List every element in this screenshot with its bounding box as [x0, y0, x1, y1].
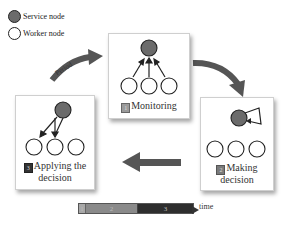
- timeline-segment-2: 2: [85, 204, 137, 213]
- service-node-icon: [55, 102, 71, 118]
- timeline-bar: 1 2 3: [78, 203, 194, 214]
- curved-arrow-right-icon: [193, 63, 245, 97]
- worker-node-icon: [26, 139, 42, 155]
- left-arrow-icon: [122, 152, 181, 172]
- worker-node-icon: [228, 141, 244, 157]
- worker-node-icon: [47, 139, 63, 155]
- service-node-icon: [231, 110, 247, 126]
- stage-card-applying-decision: 3Applying the decision: [15, 95, 95, 190]
- stage-badge-1: 1: [121, 103, 130, 113]
- time-axis-label: time: [199, 202, 213, 211]
- worker-node-icon: [68, 139, 84, 155]
- service-node-icon: [141, 40, 157, 56]
- worker-node-icon: [207, 141, 223, 157]
- worker-node-icon: [141, 78, 157, 94]
- worker-node-icon: [249, 141, 265, 157]
- stage-label-line2: decision: [16, 172, 94, 183]
- worker-node-icon: [161, 78, 177, 94]
- stage-card-monitoring: 1Monitoring: [108, 33, 190, 119]
- stage-label-line2: decision: [201, 174, 273, 185]
- stage-label: 1Monitoring: [109, 100, 189, 113]
- worker-node-icon: [121, 78, 137, 94]
- stage-card-making-decision: 2Making decision: [200, 97, 274, 191]
- timeline-segment-3: 3: [137, 204, 193, 213]
